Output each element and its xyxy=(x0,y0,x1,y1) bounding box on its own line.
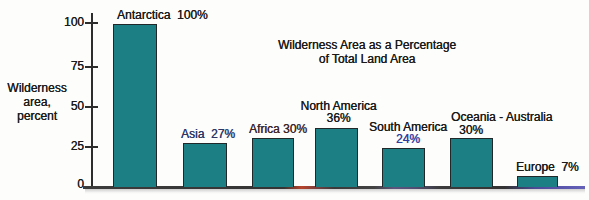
y-tick-label-50: 50 xyxy=(50,100,84,113)
label-south-america-value: 24% xyxy=(365,133,451,145)
label-oceania-australia-value: 30% xyxy=(459,124,483,136)
chart-title-line2: of Total Land Area xyxy=(267,52,467,66)
y-tick-mark-100 xyxy=(85,22,98,24)
bar-north-america xyxy=(315,128,358,187)
y-tick-mark-25 xyxy=(85,146,98,148)
bar-asia xyxy=(183,143,227,187)
bar-antarctica xyxy=(113,24,157,187)
y-tick-label-0: 0 xyxy=(50,178,84,191)
bar-europe xyxy=(517,176,558,187)
wilderness-bar-chart: Wilderness area, percent Wilderness Area… xyxy=(0,0,589,200)
y-tick-label-25: 25 xyxy=(50,140,84,153)
y-tick-mark-75 xyxy=(85,66,98,68)
label-europe: Europe 7% xyxy=(516,161,579,173)
y-tick-mark-50 xyxy=(85,106,98,108)
label-africa: Africa 30% xyxy=(249,123,307,135)
label-antarctica: Antarctica 100% xyxy=(117,9,208,21)
chart-title-line1: Wilderness Area as a Percentage xyxy=(267,38,467,52)
y-axis-line xyxy=(91,13,93,187)
y-axis-title-line: Wilderness xyxy=(0,81,74,95)
bar-south-america xyxy=(382,148,425,187)
label-oceania-australia: Oceania - Australia xyxy=(451,111,552,123)
x-axis-shadow xyxy=(85,189,585,194)
y-tick-label-75: 75 xyxy=(50,60,84,73)
label-asia: Asia 27% xyxy=(181,128,235,140)
y-tick-label-100: 100 xyxy=(50,16,84,29)
bar-oceania-australia xyxy=(450,138,493,187)
bar-africa xyxy=(252,138,294,187)
chart-title: Wilderness Area as a Percentage of Total… xyxy=(267,38,467,66)
